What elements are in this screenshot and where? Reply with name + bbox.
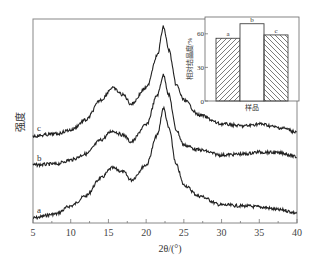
inset-bar-label: b [250, 16, 254, 24]
x-tick-label: 40 [292, 227, 302, 238]
inset-bar-label: c [274, 27, 277, 35]
inset-bar-b [240, 24, 264, 101]
inset-y-tick-label: 60 [197, 30, 205, 38]
inset-y-tick-label: 30 [197, 64, 205, 72]
inset-y-axis-title: 相对结晶度/% [185, 37, 194, 80]
inset-x-axis-title: 样品 [245, 103, 259, 112]
x-tick-label: 10 [66, 227, 76, 238]
x-tick-label: 20 [141, 227, 151, 238]
inset-y-tick-label: 0 [201, 98, 205, 106]
inset-bar-c [264, 35, 288, 101]
x-axis-title: 2θ/(°) [158, 243, 181, 255]
curve-label-c: c [37, 123, 41, 133]
y-axis-title: 强度 [14, 112, 26, 132]
x-axis-ticks [33, 219, 297, 223]
inset-bar-chart: abc 03060 样品 相对结晶度/% [185, 16, 299, 112]
x-tick-label: 5 [31, 227, 36, 238]
curve-label-a: a [37, 205, 41, 215]
inset-bar-a [216, 38, 240, 101]
x-tick-label: 35 [254, 227, 264, 238]
curve-label-b: b [37, 153, 42, 163]
x-tick-label: 15 [103, 227, 113, 238]
x-axis-tick-labels: 510152025303540 [31, 227, 303, 238]
xrd-figure: 510152025303540 c b a 2θ/(°) 强度 abc 0306… [0, 0, 318, 267]
x-tick-label: 25 [179, 227, 189, 238]
x-tick-label: 30 [217, 227, 227, 238]
